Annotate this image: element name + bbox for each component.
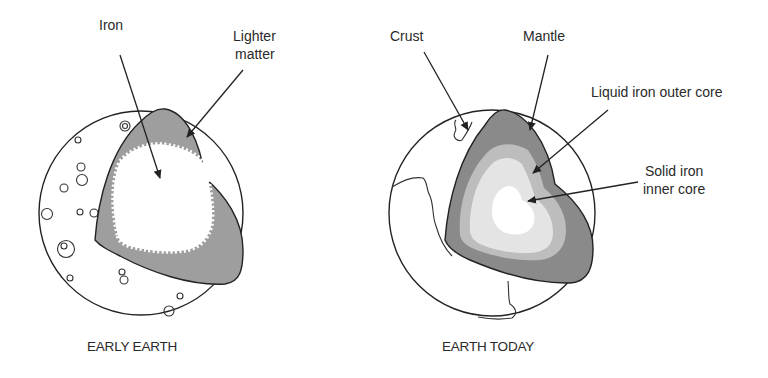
label-lighter-matter-2: matter <box>235 46 275 62</box>
label-mantle: Mantle <box>523 28 565 44</box>
arrow-mantle <box>530 55 548 130</box>
label-iron: Iron <box>99 17 123 33</box>
earth-today-panel: Crust Mantle Liquid iron outer core Soli… <box>389 28 723 354</box>
caption-earth-today: EARTH TODAY <box>442 339 534 354</box>
label-lighter-matter-1: Lighter <box>233 28 276 44</box>
label-outer-core: Liquid iron outer core <box>591 84 723 100</box>
arrow-crust <box>424 52 468 130</box>
early-earth-panel: Iron Lighter matter EARLY EARTH <box>39 17 276 354</box>
arrow-lighter-matter <box>187 70 243 137</box>
label-crust: Crust <box>390 28 424 44</box>
earth-layers-diagram: Iron Lighter matter EARLY EARTH Crust Ma… <box>0 0 768 378</box>
label-inner-core-1: Solid iron <box>645 163 703 179</box>
label-inner-core-2: inner core <box>643 181 705 197</box>
caption-early-earth: EARLY EARTH <box>87 339 177 354</box>
